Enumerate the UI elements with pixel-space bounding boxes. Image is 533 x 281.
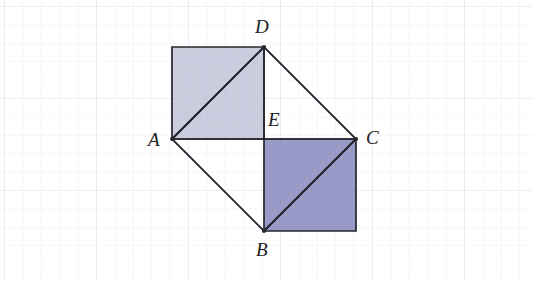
vertex-label-C: C [366,128,379,147]
vertex-dot-A [170,137,174,141]
vertex-label-E: E [268,110,280,129]
vertex-label-B: B [256,240,268,259]
vertex-dot-B [262,229,266,233]
vertex-label-D: D [255,17,269,36]
vertex-dot-C [354,137,358,141]
vertex-dot-D [262,45,266,49]
vertex-label-A: A [148,130,160,149]
geometry-figure: A B C D E [0,0,533,281]
